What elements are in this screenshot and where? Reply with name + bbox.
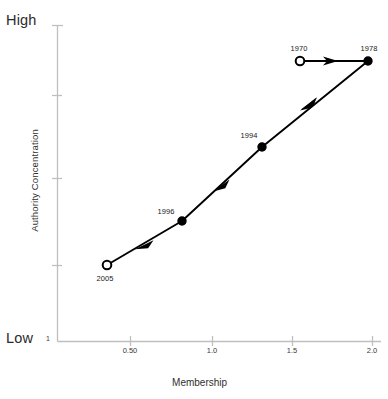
point-label-2005: 2005 <box>96 275 113 284</box>
arrow-1994-1996-head <box>213 180 230 192</box>
marker-1996 <box>178 217 186 225</box>
point-label-1970: 1970 <box>290 45 307 54</box>
chart-figure: High Low 1 Authority Concentration 0.50 … <box>0 0 388 399</box>
segment-1978-1994 <box>262 61 368 147</box>
marker-2005 <box>103 261 112 270</box>
data-markers <box>103 57 372 270</box>
x-axis-title: Membership (M/E Ratio) <box>0 365 388 399</box>
segment-1996-2005 <box>107 221 182 265</box>
y-axis-high-label: High <box>6 12 37 29</box>
y-axis-low-label: Low <box>6 330 33 347</box>
point-label-1994: 1994 <box>240 132 257 141</box>
x-tick-label-3: 2.0 <box>367 347 377 356</box>
trajectory-line <box>107 61 368 265</box>
x-tick-label-0: 0.50 <box>123 347 138 356</box>
x-tick-label-1: 1.0 <box>207 347 217 356</box>
point-label-1996: 1996 <box>157 208 174 217</box>
marker-1970 <box>296 57 305 66</box>
y-axis-origin-tick-label: 1 <box>46 335 50 343</box>
marker-1978 <box>364 57 372 65</box>
direction-arrows <box>135 56 338 249</box>
point-label-1978: 1978 <box>360 45 377 54</box>
segment-1994-1996 <box>182 147 262 221</box>
x-axis-title-main: Membership <box>172 377 227 388</box>
marker-1994 <box>258 143 266 151</box>
x-tick-label-2: 1.5 <box>287 347 297 356</box>
y-axis-title: Authority Concentration <box>30 100 41 260</box>
axis-lines <box>58 25 382 342</box>
plot-area <box>0 0 388 399</box>
